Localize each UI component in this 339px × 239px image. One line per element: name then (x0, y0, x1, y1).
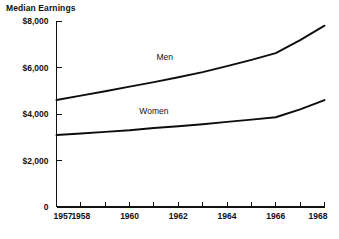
y-axis-tick-label: $4,000 (23, 109, 49, 119)
x-axis-tick-label: 1957 (54, 211, 73, 221)
y-axis-ticks: $8,000$6,000$4,000$2,0000 (23, 16, 62, 212)
y-axis-tick-label: $2,000 (23, 156, 49, 166)
line-chart-plot: $8,000$6,000$4,000$2,0000 19571958196019… (0, 0, 339, 239)
y-axis-tick-label: 0 (44, 202, 49, 212)
x-axis-ticks: 1957195819601962196419661968 (54, 202, 328, 221)
x-axis-tick-label: 1964 (218, 211, 237, 221)
series-line-women (57, 100, 325, 135)
x-axis-tick-label: 1960 (120, 211, 139, 221)
x-axis-tick-label: 1968 (309, 211, 328, 221)
x-axis-tick-label: 1958 (71, 211, 90, 221)
data-series-group (57, 26, 325, 135)
x-axis-tick-label: 1962 (169, 211, 188, 221)
y-axis-tick-label: $8,000 (23, 16, 49, 26)
chart-container: Median Earnings $8,000$6,000$4,000$2,000… (0, 0, 339, 239)
x-axis-tick-label: 1966 (266, 211, 285, 221)
series-label-women: Women (139, 106, 168, 116)
series-label-men: Men (156, 52, 173, 62)
series-line-men (57, 26, 325, 100)
y-axis-tick-label: $6,000 (23, 63, 49, 73)
